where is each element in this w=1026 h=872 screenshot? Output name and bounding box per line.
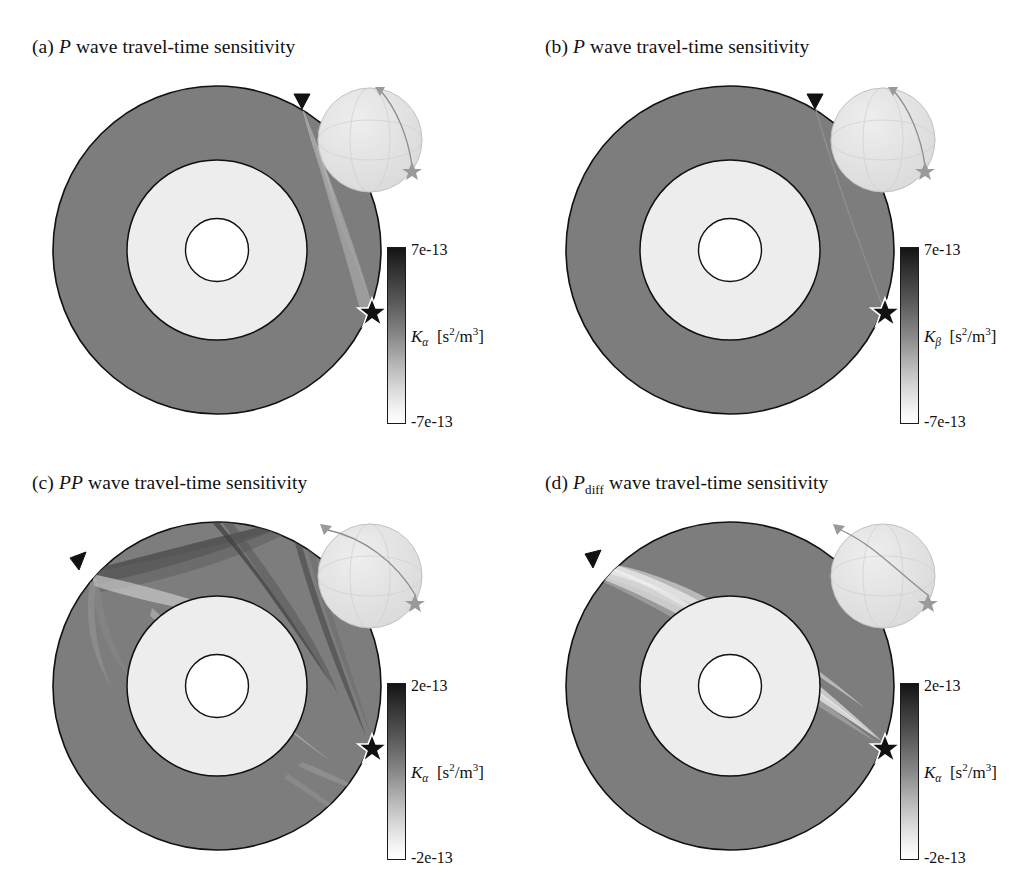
panel-b-label: (b) (545, 36, 568, 57)
kernel-symbol: K (411, 327, 422, 346)
inner-core-layer (186, 219, 249, 282)
panel-a-label: (a) (32, 36, 54, 57)
panel-d-phase: Pdiff (573, 472, 604, 493)
colorbar-max-label: 7e-13 (924, 241, 960, 259)
panel-c-colorbar: 2e-13 -2e-13 Kα [s2/m3] (387, 683, 406, 860)
panel-a-inset-globe (316, 84, 424, 196)
colorbar-axis-label: Kα [s2/m3] (411, 325, 484, 348)
panel-a-colorbar: 7e-13 -7e-13 Kα [s2/m3] (387, 247, 406, 424)
panel-d-phase-sub: diff (585, 482, 604, 497)
panel-a-title: (a) P wave travel-time sensitivity (32, 36, 295, 58)
colorbar-gradient (387, 247, 406, 424)
panel-c-phase: PP (59, 472, 83, 493)
inner-core-layer (699, 219, 762, 282)
kernel-symbol: K (924, 763, 935, 782)
colorbar-min-label: -2e-13 (411, 849, 453, 867)
colorbar-gradient (387, 683, 406, 860)
colorbar-axis-label: Kα [s2/m3] (411, 761, 484, 784)
panel-d-phase-main: P (573, 472, 585, 493)
kernel-subscript: α (935, 772, 941, 784)
kernel-symbol: K (924, 327, 935, 346)
panel-d: (d) Pdiff wave travel-time sensitivity (513, 436, 1026, 872)
inner-core-layer (699, 655, 762, 718)
colorbar-min-label: -7e-13 (924, 413, 966, 431)
panel-a: (a) P wave travel-time sensitivity (0, 0, 513, 436)
kernel-subscript: α (422, 772, 428, 784)
panel-b-title-rest: wave travel-time sensitivity (590, 36, 809, 57)
inner-core-layer (186, 655, 249, 718)
panel-b-colorbar: 7e-13 -7e-13 Kβ [s2/m3] (900, 247, 919, 424)
panel-b-phase: P (573, 36, 585, 57)
colorbar-min-label: -7e-13 (411, 413, 453, 431)
inset-receiver-triangle-icon (320, 524, 332, 535)
colorbar-max-label: 7e-13 (411, 241, 447, 259)
panel-b-inset-globe (829, 84, 937, 196)
colorbar-max-label: 2e-13 (924, 677, 960, 695)
panel-a-phase: P (59, 36, 71, 57)
panel-d-title-rest: wave travel-time sensitivity (609, 472, 828, 493)
panel-d-inset-globe (829, 520, 937, 632)
kernel-subscript: α (422, 336, 428, 348)
panel-c-title: (c) PP wave travel-time sensitivity (32, 472, 307, 494)
colorbar-axis-label: Kα [s2/m3] (924, 761, 997, 784)
panel-c-label: (c) (32, 472, 54, 493)
inset-receiver-triangle-icon (833, 524, 845, 535)
colorbar-max-label: 2e-13 (411, 677, 447, 695)
receiver-station-triangle-icon (70, 552, 86, 570)
panel-c-title-rest: wave travel-time sensitivity (88, 472, 307, 493)
colorbar-min-label: -2e-13 (924, 849, 966, 867)
panel-c-inset-globe (316, 520, 424, 632)
panel-b-title: (b) P wave travel-time sensitivity (545, 36, 809, 58)
panel-a-title-rest: wave travel-time sensitivity (76, 36, 295, 57)
panel-b: (b) P wave travel-time sensitivity 7e-13… (513, 0, 1026, 436)
kernel-subscript: β (935, 336, 941, 348)
panel-d-colorbar: 2e-13 -2e-13 Kα [s2/m3] (900, 683, 919, 860)
colorbar-gradient (900, 247, 919, 424)
panel-c: (c) PP wave travel-time sensitivity (0, 436, 513, 872)
colorbar-gradient (900, 683, 919, 860)
receiver-station-triangle-icon (585, 550, 601, 568)
kernel-symbol: K (411, 763, 422, 782)
panel-d-label: (d) (545, 472, 568, 493)
panel-d-title: (d) Pdiff wave travel-time sensitivity (545, 472, 828, 498)
colorbar-axis-label: Kβ [s2/m3] (924, 325, 996, 348)
